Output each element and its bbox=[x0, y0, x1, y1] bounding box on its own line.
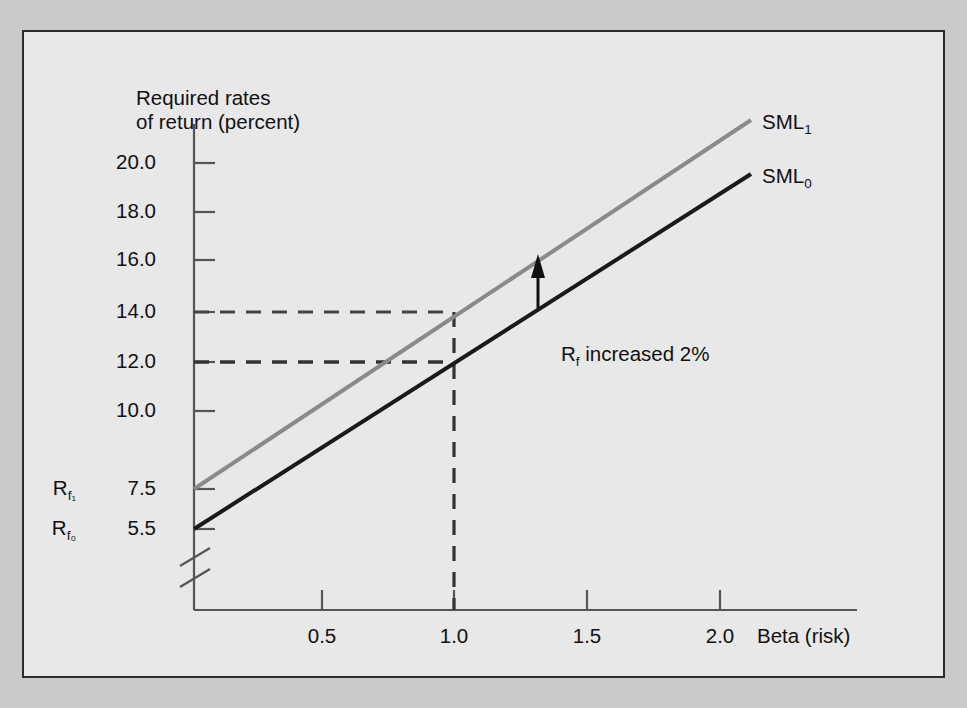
chart-page: Required rates of return (percent) 20.0 … bbox=[0, 0, 967, 708]
series-label-sml1-text: SML bbox=[762, 110, 804, 133]
x-tick-label-1-5: 1.5 bbox=[552, 624, 622, 648]
y-tick-label-14: 14.0 bbox=[80, 299, 156, 323]
series-line-sml1 bbox=[194, 120, 751, 489]
y-tick-label-5-5: 5.5 bbox=[80, 516, 156, 540]
y-tick-label-7-5: 7.5 bbox=[80, 476, 156, 500]
y-tick-label-20: 20.0 bbox=[80, 150, 156, 174]
series-label-sml1-sub: 1 bbox=[804, 122, 812, 137]
y-tick-marks bbox=[194, 163, 215, 529]
y-axis-title: Required rates of return (percent) bbox=[136, 86, 300, 134]
annotation-rf-rest: increased 2% bbox=[580, 342, 710, 365]
series-label-sml1: SML1 bbox=[762, 110, 812, 138]
x-axis-title: Beta (risk) bbox=[757, 624, 850, 648]
figure-frame: Required rates of return (percent) 20.0 … bbox=[22, 30, 945, 678]
series-label-sml0-sub: 0 bbox=[804, 176, 812, 191]
y-tick-label-18: 18.0 bbox=[80, 199, 156, 223]
annotation-rf-text: R bbox=[561, 342, 576, 365]
y-tick-label-16: 16.0 bbox=[80, 247, 156, 271]
y-tick-label-12: 12.0 bbox=[80, 349, 156, 373]
y-axis-title-line2: of return (percent) bbox=[136, 110, 300, 134]
rf0-label-text: R bbox=[52, 516, 67, 539]
x-tick-label-2-0: 2.0 bbox=[685, 624, 755, 648]
x-tick-label-1-0: 1.0 bbox=[419, 624, 489, 648]
annotation-rf-increase: Rf increased 2% bbox=[561, 342, 710, 370]
series-label-sml0: SML0 bbox=[762, 164, 812, 192]
rf0-label-sub: f₀ bbox=[67, 528, 76, 543]
rf1-label: Rf₁ bbox=[16, 476, 76, 504]
rf1-label-text: R bbox=[53, 476, 68, 499]
x-tick-marks bbox=[322, 590, 720, 610]
x-tick-label-0-5: 0.5 bbox=[287, 624, 357, 648]
y-tick-label-10: 10.0 bbox=[80, 398, 156, 422]
y-axis-title-line1: Required rates bbox=[136, 86, 300, 110]
rf0-label: Rf₀ bbox=[16, 516, 76, 544]
rf1-label-sub: f₁ bbox=[68, 488, 76, 503]
series-label-sml0-text: SML bbox=[762, 164, 804, 187]
